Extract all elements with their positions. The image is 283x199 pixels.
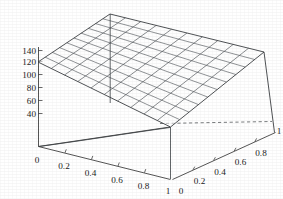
z-tick-label: 60 (27, 96, 37, 106)
y-tick-label: 0.2 (194, 176, 206, 186)
y-tick-marks (193, 138, 257, 169)
z-axis-labels: 140 120 100 80 60 40 (22, 46, 36, 119)
y-tick-label: 0.6 (235, 157, 247, 167)
x-axis-labels: 0 0.2 0.4 0.6 0.8 1 (35, 155, 171, 196)
x-tick-label: 0.4 (85, 168, 97, 178)
z-tick-label: 100 (22, 70, 36, 80)
y-tick-label: 0.4 (214, 167, 226, 177)
y-axis-end-label: 1 (277, 126, 282, 136)
right-vertical-edge (264, 52, 275, 133)
x-tick-label: 0.2 (58, 161, 70, 171)
x-tick-label: 0.6 (111, 175, 123, 185)
x-tick-marks (65, 149, 146, 172)
z-tick-label: 120 (22, 57, 36, 67)
surface-plot-3d: 140 120 100 80 60 40 0 0.2 0.4 0.6 0.8 1… (0, 0, 283, 199)
z-tick-label: 40 (27, 109, 37, 119)
y-tick-label: 0.8 (255, 148, 267, 158)
x-tick-label: 0 (35, 155, 40, 165)
z-tick-label: 140 (22, 46, 36, 56)
x-tick-label: 0.8 (138, 181, 150, 191)
plot-canvas: 140 120 100 80 60 40 0 0.2 0.4 0.6 0.8 1… (0, 0, 283, 199)
base-arc-curve (39, 128, 170, 147)
x-tick-label: 1 (166, 186, 171, 196)
y-tick-label: 0 (179, 186, 184, 196)
surface-fill (38, 14, 264, 127)
z-tick-label: 80 (27, 83, 37, 93)
